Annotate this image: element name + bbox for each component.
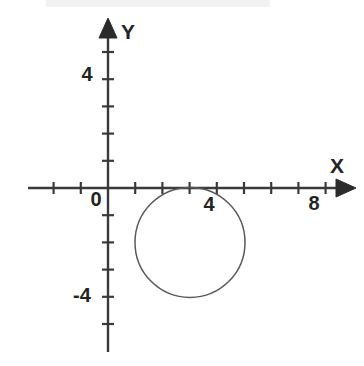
coordinate-plane-plot: X Y 0 4 8 4 -4 bbox=[0, 0, 364, 366]
x-tick-label-8: 8 bbox=[308, 192, 319, 214]
y-tick-label-4: 4 bbox=[81, 63, 93, 85]
figure-root: X Y 0 4 8 4 -4 bbox=[0, 0, 364, 366]
x-tick-label-4: 4 bbox=[203, 193, 215, 215]
x-axis-label: X bbox=[330, 154, 344, 177]
origin-label: 0 bbox=[90, 188, 101, 210]
y-axis-label: Y bbox=[121, 20, 135, 43]
circle-shape bbox=[135, 187, 245, 297]
x-axis-arrowhead bbox=[336, 179, 356, 197]
y-axis-arrowhead bbox=[99, 18, 117, 38]
y-tick-label-neg4: -4 bbox=[73, 284, 92, 306]
